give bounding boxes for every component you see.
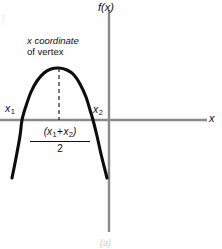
midpoint-fraction: (x1+x2) 2 <box>30 126 90 155</box>
root-label-x2-subscript: 2 <box>98 108 103 117</box>
midpoint-denominator: 2 <box>30 142 90 155</box>
vertex-annotation-line2: of vertex <box>27 46 79 57</box>
x-axis-label: x <box>209 112 215 125</box>
vertex-annotation-line1-var: x coordinate <box>27 35 79 46</box>
figure-container: f(x) x x coordinate of vertex x1 x2 (x1+… <box>0 0 222 249</box>
midpoint-numerator: (x1+x2) <box>30 126 90 142</box>
root-label-x1-subscript: 1 <box>10 107 15 116</box>
midpoint-subscript-1: 1 <box>52 130 57 139</box>
vertex-annotation: x coordinate of vertex <box>27 35 79 57</box>
panel-caption: (a) <box>100 238 111 249</box>
midpoint-close-paren: ) <box>73 126 76 137</box>
root-label-x1: x1 <box>5 102 15 117</box>
y-axis-label: f(x) <box>98 1 114 14</box>
midpoint-open-paren-var: (x <box>44 126 52 137</box>
root-label-x2: x2 <box>93 103 103 118</box>
